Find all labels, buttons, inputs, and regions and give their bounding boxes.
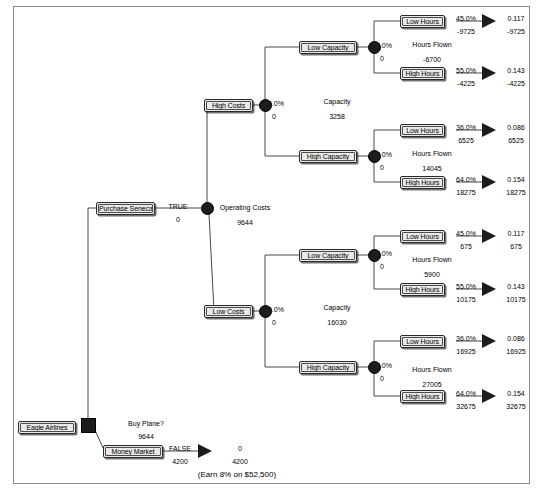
branch-hours-7-label: High Hours <box>405 393 439 400</box>
branch-hours-2-prob: 36.0% <box>456 124 476 132</box>
branch-hours-5-prob: 55.0% <box>456 283 476 291</box>
terminal-4-prob: 0.117 <box>508 230 525 238</box>
branch-high-costs[interactable]: High Costs <box>204 99 253 112</box>
chance-node-capacity-low-costs[interactable] <box>259 305 272 318</box>
chance-node-hours-3[interactable] <box>368 361 381 374</box>
chance-node-hours-2-title: Hours Flown <box>412 256 451 264</box>
decision-node-buy-plane[interactable] <box>81 418 96 433</box>
chance-node-operating-costs-value: 9644 <box>237 219 253 227</box>
chance-node-operating-costs[interactable] <box>201 202 214 215</box>
branch-hours-7-prob: 64.0% <box>456 390 476 398</box>
branch-hours-4-value: 675 <box>460 243 472 251</box>
terminal-node-6 <box>482 334 496 348</box>
branch-capacity-1[interactable]: High Capacity <box>299 150 357 163</box>
terminal-3-value: 18275 <box>506 189 525 197</box>
terminal-money-market-prob: 0 <box>238 445 242 453</box>
branch-capacity-0-label: Low Capacity <box>308 44 349 51</box>
root-node-eagle-airlines[interactable]: Eagle Airlines <box>18 421 76 434</box>
branch-capacity-1-value: 0 <box>380 164 384 172</box>
branch-hours-5[interactable]: High Hours <box>400 283 445 296</box>
branch-hours-6-prob: 36.0% <box>456 335 476 343</box>
branch-hours-7-value: 32675 <box>456 403 475 411</box>
terminal-node-3 <box>482 175 496 189</box>
branch-hours-1[interactable]: High Hours <box>400 67 445 80</box>
terminal-node-5 <box>482 282 496 296</box>
chance-node-hours-3-title: Hours Flown <box>412 366 451 374</box>
footnote-label: (Earn 8% on $52,500) <box>198 471 276 479</box>
terminal-5-value: 10175 <box>506 296 525 304</box>
branch-capacity-1-label: High Capacity <box>307 153 349 160</box>
branch-hours-2[interactable]: Low Hours <box>400 124 445 137</box>
chance-node-hours-2-value: 5900 <box>424 271 440 279</box>
terminal-node-4 <box>482 229 496 243</box>
chance-node-hours-1-title: Hours Flown <box>412 150 451 158</box>
branch-capacity-3-value: 0 <box>380 375 384 383</box>
branch-hours-2-value: 6525 <box>458 137 474 145</box>
branch-capacity-3[interactable]: High Capacity <box>299 361 357 374</box>
branch-hours-7[interactable]: High Hours <box>400 390 445 403</box>
terminal-7-value: 32675 <box>506 403 525 411</box>
branch-hours-4[interactable]: Low Hours <box>400 230 445 243</box>
branch-hours-1-prob: 55.0% <box>456 67 476 75</box>
branch-money-market-value: 4200 <box>172 458 188 466</box>
branch-hours-5-value: 10175 <box>456 296 475 304</box>
branch-hours-0-prob: 45.0% <box>456 15 476 23</box>
chance-node-hours-3-value: 27005 <box>422 381 441 389</box>
terminal-2-value: 6525 <box>508 137 524 145</box>
terminal-6-prob: 0.086 <box>507 335 525 343</box>
branch-high-costs-value: 0 <box>272 113 276 121</box>
branch-money-market-label: Money Market <box>111 448 154 455</box>
terminal-node-7 <box>482 389 496 403</box>
branch-high-costs-label: High Costs <box>212 102 245 109</box>
branch-hours-5-label: High Hours <box>405 286 439 293</box>
chance-node-hours-1[interactable] <box>368 150 381 163</box>
branch-purchase-seneca-label: Purchase Seneca <box>99 205 153 212</box>
decision-question-label: Buy Plane? <box>128 420 164 428</box>
branch-capacity-0[interactable]: Low Capacity <box>299 41 357 54</box>
decision-question-value: 9644 <box>138 433 154 441</box>
branch-hours-6-value: 16925 <box>456 348 475 356</box>
branch-hours-2-label: Low Hours <box>406 127 439 134</box>
terminal-3-prob: 0.154 <box>507 176 525 184</box>
chance-node-hours-0-title: Hours Flown <box>412 41 451 49</box>
terminal-money-market-value: 4200 <box>232 458 248 466</box>
branch-low-costs[interactable]: Low Costs <box>204 305 253 318</box>
branch-capacity-2-label: Low Capacity <box>308 252 349 259</box>
chance-node-hours-1-value: 14045 <box>422 165 441 173</box>
decision-tree-canvas: Eagle Airlines Buy Plane? 9644 Purchase … <box>0 0 537 495</box>
branch-low-costs-value: 0 <box>272 319 276 327</box>
branch-hours-3-value: 18275 <box>456 189 475 197</box>
branch-purchase-seneca-value: 0 <box>176 216 180 224</box>
branch-purchase-seneca[interactable]: Purchase Seneca <box>96 202 155 215</box>
chance-node-capacity-low-costs-title: Capacity <box>323 304 350 312</box>
branch-capacity-3-label: High Capacity <box>307 364 349 371</box>
root-node-label: Eagle Airlines <box>26 424 67 431</box>
branch-hours-6-label: Low Hours <box>406 338 439 345</box>
branch-hours-0-value: -9725 <box>457 28 475 36</box>
terminal-4-value: 675 <box>510 243 522 251</box>
branch-hours-3-prob: 64.0% <box>456 176 476 184</box>
branch-hours-1-label: High Hours <box>405 70 439 77</box>
branch-hours-1-value: -4225 <box>457 80 475 88</box>
diagram-frame <box>13 6 530 484</box>
terminal-node-money-market <box>198 444 212 458</box>
chance-node-capacity-high-costs[interactable] <box>259 99 272 112</box>
terminal-node-2 <box>482 123 496 137</box>
chance-node-hours-0[interactable] <box>368 41 381 54</box>
branch-capacity-2-value: 0 <box>380 263 384 271</box>
chance-node-hours-0-value: -6700 <box>423 56 441 64</box>
branch-hours-0[interactable]: Low Hours <box>400 15 445 28</box>
branch-low-costs-label: Low Costs <box>213 308 245 315</box>
branch-hours-6[interactable]: Low Hours <box>400 335 445 348</box>
branch-capacity-0-value: 0 <box>380 55 384 63</box>
branch-hours-3[interactable]: High Hours <box>400 176 445 189</box>
terminal-0-value: -9725 <box>507 28 525 36</box>
chance-node-hours-2[interactable] <box>368 249 381 262</box>
terminal-5-prob: 0.143 <box>507 283 525 291</box>
chance-node-operating-costs-title: Operating Costs <box>220 204 271 212</box>
branch-capacity-2[interactable]: Low Capacity <box>299 249 357 262</box>
branch-money-market[interactable]: Money Market <box>103 445 163 458</box>
terminal-node-0 <box>482 14 496 28</box>
branch-hours-4-label: Low Hours <box>406 233 439 240</box>
branch-purchase-seneca-flag: TRUE <box>168 203 187 211</box>
